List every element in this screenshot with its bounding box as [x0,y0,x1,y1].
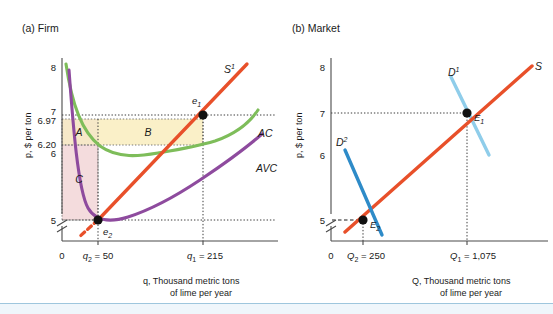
point-label-E2: E2 [370,219,380,232]
curve-label-s1-sup: 1 [231,63,235,70]
point-E1 [462,108,471,117]
origin-firm: 0 [59,250,64,261]
panel-firm: (a) Firm 8 7 6.97 [22,22,278,298]
curve-label-ac: AC [257,127,273,139]
point-label-e1: e1 [192,95,201,108]
y-tick-market-7: 7 [320,108,325,119]
x-axis-title-market-line1: Q, Thousand metric tons [412,276,511,286]
point-label-E2-sub: 2 [375,225,380,232]
y-tick-firm-5: 5 [51,215,56,226]
y-tick-firm-6: 6 [51,148,56,159]
x-tick-Q1-rest: = 1,075 [461,250,496,261]
panel-market-title: (b) Market [292,22,340,34]
x-tick-q2-rest: = 50 [92,250,113,261]
y-axis-title-firm: p, $ per ton [23,112,33,158]
point-e2 [93,215,102,224]
x-tick-label-q2: q2 = 50 [83,250,114,263]
origin-market: 0 [328,250,333,261]
y-tick-firm-697: 6.97 [38,115,57,126]
y-tick-market-6: 6 [320,150,325,161]
x-tick-Q2-rest: = 250 [358,250,385,261]
curve-label-s1-base: S [224,63,231,75]
curve-supply-market [345,66,532,232]
footer-band [0,304,553,314]
point-label-E1: E1 [474,112,484,125]
curve-label-d2-sup: 2 [343,136,348,143]
economics-figure: (a) Firm 8 7 6.97 [0,0,553,314]
x-tick-label-Q1: Q1 = 1,075 [450,250,496,263]
point-label-E1-sub: 1 [480,118,484,125]
y-tick-market-5: 5 [320,215,325,226]
point-label-e1-sub: 1 [197,101,201,108]
point-label-e2-sub: 2 [107,232,112,239]
x-tick-label-q1: q1 = 215 [187,250,223,263]
panel-market: (b) Market 8 7 6 5 p, $ per ton 0 Q2 = 2… [292,22,548,298]
region-label-b: B [144,126,151,138]
y-tick-firm-8: 8 [51,62,56,73]
curve-label-avc: AVC [255,162,277,174]
x-axis-title-firm-line1: q, Thousand metric tons [143,276,240,286]
point-e1 [198,110,207,119]
point-E2 [358,215,367,224]
curve-label-supply-market: S [535,60,542,72]
x-axis-title-market-line2: of lime per year [440,288,502,298]
x-tick-label-Q2: Q2 = 250 [347,250,385,263]
region-label-c: C [75,173,83,185]
curve-label-demand2: D2 [336,136,348,148]
y-axis-title-market: p, $ per ton [294,112,304,158]
point-label-e2: e2 [103,226,112,239]
x-axis-title-firm-line2: of lime per year [170,288,232,298]
region-label-a: A [74,126,82,138]
curve-label-supply-firm: S1 [224,63,235,75]
curve-label-demand1: D1 [448,66,460,78]
panel-firm-title: (a) Firm [22,22,59,34]
curve-label-d1-sup: 1 [456,66,460,73]
x-tick-q1-rest: = 215 [196,250,223,261]
y-tick-market-8: 8 [320,62,325,73]
